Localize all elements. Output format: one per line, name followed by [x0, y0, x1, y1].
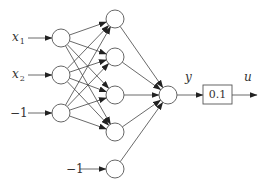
output-node [159, 86, 177, 104]
output-label-y: y [185, 71, 192, 83]
neural-network-diagram: x1 x2 −1 −1 y u 0.1 [0, 0, 266, 182]
input-node [52, 66, 70, 84]
input-label-x2: x2 [12, 68, 25, 83]
input-hidden-edge [67, 63, 109, 106]
hidden-node [106, 48, 124, 66]
input-hidden-edge [65, 27, 110, 105]
input-hidden-edge [67, 82, 109, 126]
hidden-node [106, 160, 124, 178]
input-hidden-edge [69, 116, 106, 129]
hidden-bias-label: −1 [66, 163, 84, 175]
gain-box-value: 0.1 [203, 85, 232, 104]
input-node [52, 29, 70, 47]
hidden-node [106, 10, 124, 28]
input-label-x1: x1 [12, 31, 25, 46]
input-hidden-edge [67, 25, 109, 68]
input-hidden-edge [70, 98, 107, 110]
final-output-label-u: u [244, 71, 252, 83]
hidden-output-edge [120, 102, 163, 161]
hidden-node [106, 86, 124, 104]
input-node [52, 104, 70, 122]
hidden-output-edge [120, 26, 163, 87]
hidden-node [106, 123, 124, 141]
input-bias-label: −1 [10, 107, 28, 119]
